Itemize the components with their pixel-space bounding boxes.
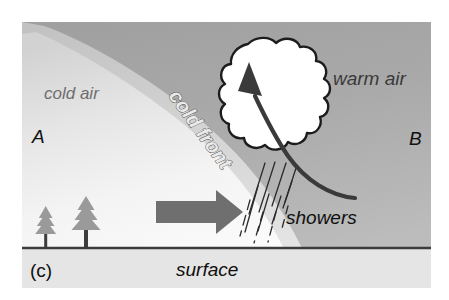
label-surface: surface — [176, 259, 238, 280]
tree-trunk — [84, 228, 88, 248]
label-point-b: B — [409, 128, 422, 149]
diagram-canvas: cold air warm air A B cold front showers… — [0, 0, 449, 300]
label-point-a: A — [31, 126, 45, 147]
label-showers: showers — [286, 207, 357, 228]
label-panel: (c) — [30, 260, 52, 281]
label-warm-air: warm air — [333, 68, 407, 89]
tree-trunk — [44, 234, 47, 248]
cold-front-diagram: cold air warm air A B cold front showers… — [0, 0, 449, 300]
label-cold-air: cold air — [44, 84, 100, 103]
